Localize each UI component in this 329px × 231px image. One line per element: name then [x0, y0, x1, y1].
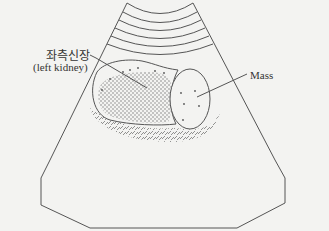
- mass-outline: [170, 69, 210, 129]
- ultrasound-scan-illustration: [0, 0, 329, 231]
- label-mass: Mass: [250, 69, 273, 81]
- kidney-sinus-stipple: [98, 72, 172, 123]
- ultrasound-diagram: 좌측신장 (left kidney) Mass: [0, 0, 329, 231]
- label-kidney-english: (left kidney): [33, 61, 88, 73]
